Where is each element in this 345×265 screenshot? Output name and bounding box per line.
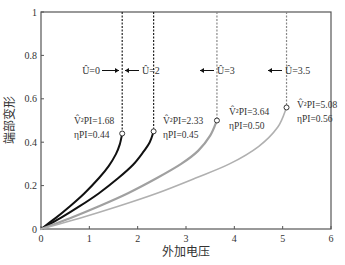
u-parameter-label: Û=3.5 <box>285 65 310 76</box>
chart-container: 012345600.20.40.60.81 Û=0V̂²PI=1.68ηPI=0… <box>0 0 345 265</box>
pull-in-voltage-label: V̂²PI=5.08 <box>297 98 337 110</box>
x-tick-label: 1 <box>87 233 92 244</box>
u-parameter-label: Û=0 <box>82 65 100 76</box>
arrow-head-icon <box>125 68 129 73</box>
y-tick-label: 1 <box>32 7 37 18</box>
pull-in-voltage-label: V̂²PI=1.68 <box>74 114 114 126</box>
x-tick-label: 6 <box>329 233 334 244</box>
y-axis-label: 端部变形 <box>2 96 17 144</box>
x-tick-label: 4 <box>232 233 237 244</box>
pull-in-point-marker <box>214 118 219 123</box>
y-tick-label: 0.2 <box>25 180 38 191</box>
pull-in-eta-label: ηPI=0.50 <box>229 121 265 131</box>
pull-in-point-marker <box>120 131 125 136</box>
x-tick-label: 3 <box>184 233 189 244</box>
arrow-head-icon <box>200 68 204 73</box>
y-tick-label: 0.4 <box>25 137 38 148</box>
x-tick-label: 5 <box>280 233 285 244</box>
pull-in-point-marker <box>151 129 156 134</box>
y-tick-label: 0 <box>32 224 37 235</box>
pull-in-voltage-label: V̂²PI=2.33 <box>163 114 203 126</box>
pull-in-point-marker <box>284 105 289 110</box>
x-axis-label: 外加电压 <box>162 245 210 259</box>
x-tick-label: 0 <box>39 233 44 244</box>
y-tick-label: 0.6 <box>25 93 38 104</box>
u-parameter-label: Û=3 <box>217 65 235 76</box>
pull-in-voltage-label: V̂²PI=3.64 <box>229 105 269 117</box>
annotations: Û=0V̂²PI=1.68ηPI=0.44Û=2V̂²PI=2.33ηPI=0.… <box>74 65 337 140</box>
pull-in-eta-label: ηPI=0.45 <box>163 130 199 140</box>
line-chart: 012345600.20.40.60.81 Û=0V̂²PI=1.68ηPI=0… <box>0 0 345 265</box>
u-parameter-label: Û=2 <box>142 65 160 76</box>
arrow-head-icon <box>268 68 272 73</box>
x-tick-label: 2 <box>135 233 140 244</box>
pull-in-eta-label: ηPI=0.44 <box>74 130 110 140</box>
y-tick-label: 0.8 <box>25 50 38 61</box>
pull-in-eta-label: ηPI=0.56 <box>297 114 333 124</box>
arrow-head-icon <box>115 68 119 73</box>
